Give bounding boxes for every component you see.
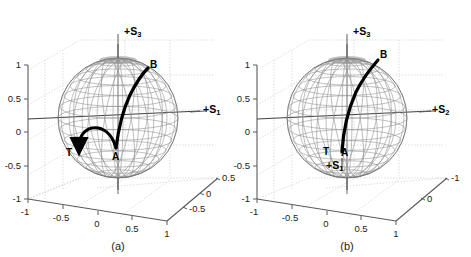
tick-vertical-5: -1 (13, 194, 21, 204)
tick-bottom-5: 1 (393, 229, 398, 239)
tick-depth-3: -0.5 (189, 204, 205, 214)
tick-bottom-5: 1 (164, 229, 169, 239)
tick-vertical-3: 0 (16, 127, 21, 137)
point-label-t: T (323, 147, 329, 157)
point-label-t: T (66, 148, 72, 158)
panel-a-graphics (0, 0, 236, 257)
s3-axis-label: +S3 (353, 26, 370, 37)
tick-vertical-1: 1 (16, 60, 21, 70)
tick-vertical-1: 1 (245, 60, 250, 70)
tick-vertical-4: -0.5 (234, 161, 250, 171)
tick-depth-1: 0.5 (222, 173, 235, 183)
tick-bottom-1: -1 (250, 207, 258, 217)
panel-a-caption: (a) (111, 240, 124, 252)
tick-depth-1: -1 (451, 173, 459, 183)
panel-b-graphics (235, 0, 471, 257)
tick-bottom-1: -1 (21, 207, 29, 217)
point-label-a: A (112, 152, 119, 162)
tick-vertical-2: 0.5 (237, 94, 250, 104)
tick-vertical-5: -1 (242, 194, 250, 204)
tick-vertical-2: 0.5 (8, 94, 21, 104)
axes-grid (257, 40, 444, 217)
point-label-a: A (341, 148, 348, 158)
tick-depth-2: 0 (206, 189, 211, 199)
tick-vertical-3: 0 (245, 127, 250, 137)
panel-b-caption: (b) (340, 240, 353, 252)
s3-axis-label: +S3 (124, 26, 141, 37)
tick-bottom-4: 0.5 (354, 224, 367, 234)
tick-bottom-2: -0.5 (53, 213, 69, 223)
sphere-wireframe (58, 51, 178, 184)
panel-a: 1 0.5 0 -0.5 -1 -1 -0.5 0 0.5 1 0.5 0 -0… (0, 0, 236, 257)
trajectory-a-to-b (116, 68, 148, 148)
tick-bottom-3: 0 (323, 219, 328, 229)
poincare-sphere-figure: 1 0.5 0 -0.5 -1 -1 -0.5 0 0.5 1 0.5 0 -0… (0, 0, 471, 257)
panel-b: 1 0.5 0 -0.5 -1 -1 -0.5 0 0.5 1 -1 0 +S3… (235, 0, 471, 257)
tick-vertical-4: -0.5 (5, 161, 21, 171)
axis-lines (28, 65, 218, 221)
point-label-b: B (150, 60, 157, 70)
s1-axis-label: +S1 (203, 104, 220, 115)
vertical-axis-ticks (253, 65, 257, 199)
axes-grid (28, 40, 215, 217)
s2-axis-label: +S2 (432, 104, 449, 115)
axis-lines (257, 65, 447, 221)
tick-depth-2: 0 (427, 194, 432, 204)
tick-bottom-4: 0.5 (125, 224, 138, 234)
point-label-b: B (380, 50, 387, 60)
s1-axis-label: +S1 (326, 160, 343, 171)
tick-bottom-3: 0 (94, 219, 99, 229)
vertical-axis-ticks (24, 65, 28, 199)
tick-bottom-2: -0.5 (282, 213, 298, 223)
